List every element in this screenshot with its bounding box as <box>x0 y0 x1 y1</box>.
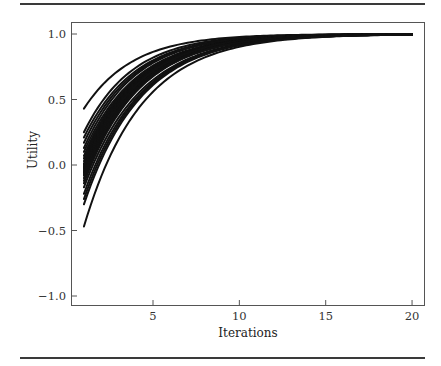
line-chart: 1.00.50.0−0.5−1.0 5101520 Iterations Uti… <box>0 0 441 366</box>
y-tick-label: 1.0 <box>48 27 66 41</box>
x-tick-label: 15 <box>318 309 333 323</box>
series-line <box>84 34 412 183</box>
plot-frame <box>72 23 425 306</box>
x-axis-title: Iterations <box>218 326 277 340</box>
bottom-rule <box>20 357 425 359</box>
x-tick-label: 20 <box>405 309 420 323</box>
series-line <box>84 35 412 188</box>
y-tick-label: 0.5 <box>48 93 66 107</box>
x-tick-label: 10 <box>232 309 247 323</box>
series-line <box>84 35 412 227</box>
y-tick-label: 0.0 <box>48 158 66 172</box>
y-tick-label: −0.5 <box>38 224 66 238</box>
y-tick-label: −1.0 <box>38 289 66 303</box>
x-tick-label: 5 <box>149 309 156 323</box>
series-lines <box>84 34 412 226</box>
y-axis-title: Utility <box>26 131 40 169</box>
x-axis: 5101520 <box>149 300 419 323</box>
